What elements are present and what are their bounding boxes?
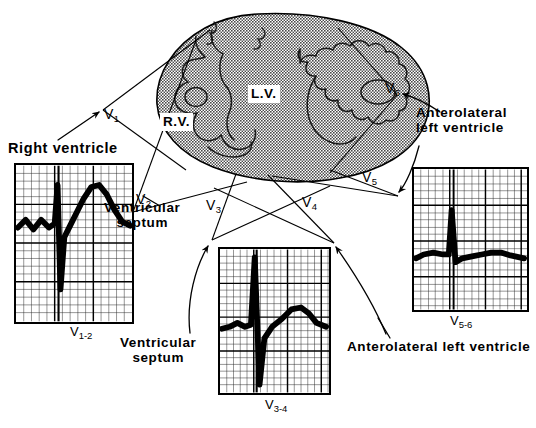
label-anterolateral-lower: Anterolateral left ventricle — [347, 339, 530, 354]
septum-lower-line2: septum — [120, 350, 196, 365]
septum-lower-line1: Ventricular — [120, 335, 196, 350]
arrow-anterolateral-lower — [336, 247, 386, 334]
ecg-caption-v5-6: V5-6 — [450, 313, 472, 328]
ecg-panel-v1-2 — [14, 163, 134, 324]
label-right-ventricle-chamber: R.V. — [160, 113, 193, 131]
septum-upper-line1: Ventricular — [104, 200, 180, 215]
ecg-caption-v1-2: V1-2 — [70, 324, 92, 339]
caption-v5-6-sub: 5-6 — [459, 319, 473, 330]
caption-v3-4-sub: 3-4 — [274, 403, 288, 414]
pointer-anterolateral-lower — [378, 318, 390, 338]
ecg-lead-orientation-figure: V1-2 V3-4 — [0, 0, 536, 428]
label-left-ventricle-chamber: L.V. — [248, 85, 280, 103]
ecg-caption-v3-4: V3-4 — [265, 397, 287, 412]
label-anterolateral-upper: Anterolateral left ventricle — [416, 105, 507, 135]
lead-label-v4: V4 — [302, 194, 317, 210]
ecg-panel-v3-4 — [218, 247, 331, 395]
lead-label-v5: V5 — [362, 169, 377, 185]
lead-label-v1: V1 — [104, 106, 119, 122]
lead-label-v3: V3 — [206, 197, 221, 213]
septum-upper-line2: septum — [104, 215, 180, 230]
lead-label-v6: V6 — [385, 80, 400, 96]
ecg-panel-v5-6 — [412, 167, 529, 312]
anterolateral-upper-line1: Anterolateral — [416, 105, 507, 120]
caption-v3-4-text: V — [265, 397, 274, 412]
arrow-right-ventricle — [58, 112, 99, 140]
caption-v5-6-text: V — [450, 313, 459, 328]
anterolateral-upper-line2: left ventricle — [416, 120, 507, 135]
caption-v1-2-sub: 1-2 — [79, 330, 93, 341]
caption-v1-2-text: V — [70, 324, 79, 339]
arrow-septum-lower — [189, 246, 208, 333]
label-ventricular-septum-lower: Ventricular septum — [120, 335, 196, 365]
label-ventricular-septum-upper: Ventricular septum — [104, 200, 180, 230]
label-right-ventricle: Right ventricle — [8, 140, 118, 156]
